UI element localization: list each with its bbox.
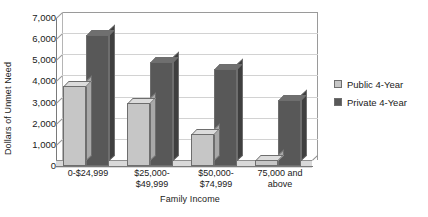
legend-swatch-icon <box>334 98 342 106</box>
bar-front-face <box>63 86 86 166</box>
bar-side-face <box>237 58 243 161</box>
bar-public-4-year <box>191 134 214 166</box>
bar-side-face <box>109 24 115 161</box>
legend-label: Public 4-Year <box>347 79 403 90</box>
bar-side-face <box>301 90 307 161</box>
x-axis-category-label: $25,000- $49,999 <box>116 168 188 190</box>
x-axis-category-label: 0-$24,999 <box>52 168 124 179</box>
unmet-need-bar-chart: Dollars of Unmet Need 7,0006,0005,0004,0… <box>0 0 428 217</box>
bar-front-face <box>191 134 214 166</box>
legend-item: Public 4-Year <box>334 78 426 90</box>
bar-side-face <box>173 52 179 161</box>
legend-swatch-icon <box>334 80 342 88</box>
chart-legend: Public 4-YearPrivate 4-Year <box>334 78 426 114</box>
x-axis-category-label: 75,000 and above <box>244 168 316 190</box>
bar-front-face <box>255 160 278 166</box>
x-axis-category-labels: 0-$24,999$25,000- $49,999$50,000- $74,99… <box>0 168 428 194</box>
bar-public-4-year <box>127 103 150 166</box>
bar-side-face <box>86 75 92 161</box>
bar-front-face <box>127 103 150 166</box>
x-axis-category-label: $50,000- $74,999 <box>180 168 252 190</box>
x-axis-title: Family Income <box>60 194 320 204</box>
bar-public-4-year <box>255 160 278 166</box>
bar-public-4-year <box>63 86 86 166</box>
legend-label: Private 4-Year <box>347 97 407 108</box>
legend-item: Private 4-Year <box>334 96 426 108</box>
